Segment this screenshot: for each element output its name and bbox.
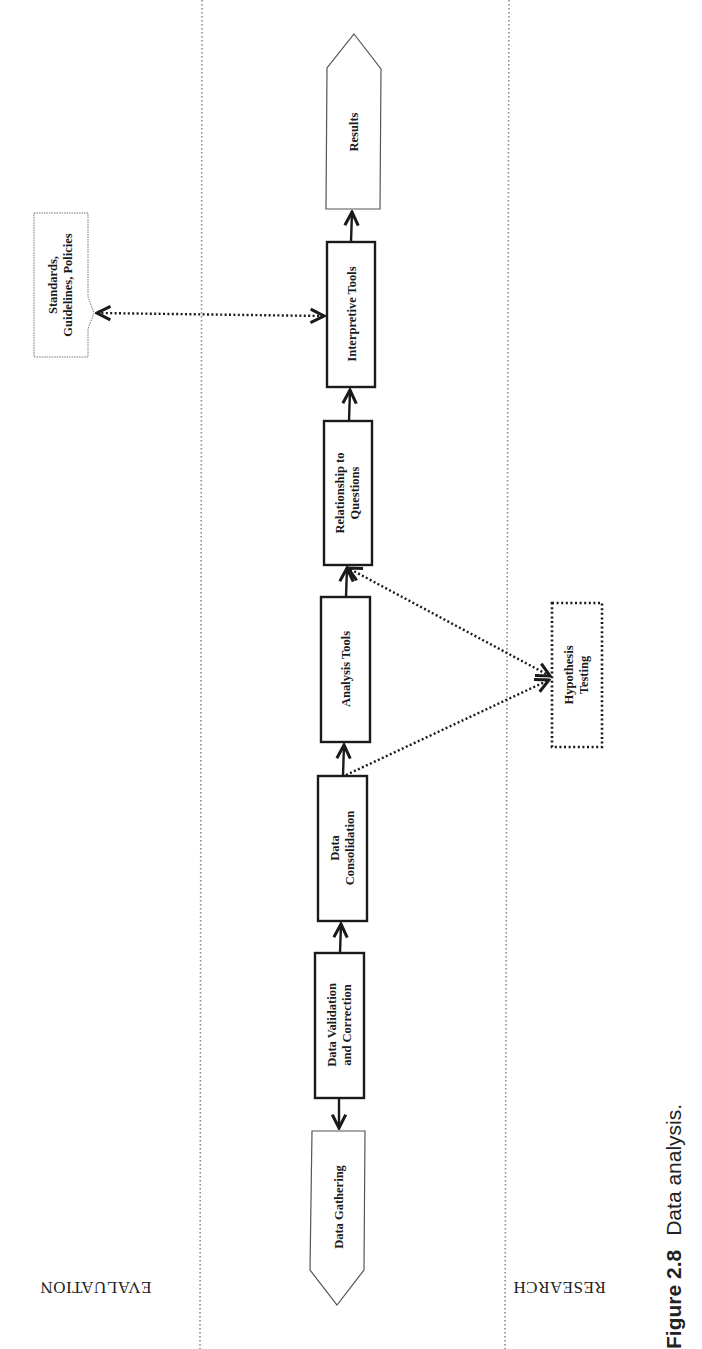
hypothesis-node: Hypothesis Testing bbox=[557, 603, 597, 747]
figure-number: Figure 2.8 bbox=[662, 1250, 685, 1349]
arrow-consolidation-to-analysis bbox=[343, 745, 344, 776]
dotted-standards-interpretive bbox=[97, 313, 324, 316]
validation-label-line1: Data Validation bbox=[325, 983, 340, 1067]
lane-divider-right bbox=[505, 0, 509, 1349]
dotted-hypothesis-relationship bbox=[348, 568, 550, 676]
standards-label-line1: Standards, bbox=[46, 256, 61, 314]
data-gathering-node: Data Gathering bbox=[327, 1135, 351, 1280]
relationship-node: Relationship to Questions bbox=[328, 421, 368, 565]
diagram-canvas: Results Interpretive Tools Relationship … bbox=[0, 0, 702, 1349]
figure-caption: Figure 2.8Data analysis. bbox=[662, 1104, 687, 1349]
relationship-label-line1: Relationship to bbox=[333, 453, 348, 534]
lane-divider-left bbox=[200, 0, 202, 1349]
hypothesis-label-line2: Testing bbox=[577, 656, 592, 694]
validation-label-line2: and Correction bbox=[340, 984, 355, 1065]
arrow-analysis-to-relationship bbox=[346, 568, 347, 597]
dotted-consolidation-hypothesis bbox=[346, 680, 549, 775]
interpretive-tools-label: Interpretive Tools bbox=[344, 266, 359, 361]
analysis-tools-label: Analysis Tools bbox=[338, 631, 353, 707]
arrow-validation-to-consolidation bbox=[340, 924, 341, 953]
arrow-relationship-to-interpretive bbox=[349, 390, 350, 421]
analysis-tools-node: Analysis Tools bbox=[334, 597, 358, 742]
arrow-interpretive-to-results bbox=[351, 212, 352, 242]
data-consolidation-node: Data Consolidation bbox=[323, 776, 363, 921]
consolidation-label-line1: Data bbox=[328, 835, 343, 861]
lane-label-research: RESEARCH bbox=[513, 1277, 606, 1297]
relationship-label-line2: Questions bbox=[348, 467, 363, 520]
interpretive-tools-node: Interpretive Tools bbox=[340, 242, 364, 387]
consolidation-label-line2: Consolidation bbox=[343, 811, 358, 885]
results-node: Results bbox=[342, 62, 366, 202]
data-validation-node: Data Validation and Correction bbox=[320, 953, 360, 1098]
lane-label-evaluation: EVALUATION bbox=[40, 1277, 151, 1297]
data-gathering-label: Data Gathering bbox=[331, 1165, 346, 1249]
hypothesis-label-line1: Hypothesis bbox=[562, 645, 577, 704]
standards-label-line2: Guidelines, Policies bbox=[61, 233, 76, 336]
standards-node: Standards, Guidelines, Policies bbox=[41, 213, 81, 357]
results-label: Results bbox=[347, 113, 362, 152]
figure-caption-text: Data analysis. bbox=[662, 1104, 685, 1236]
